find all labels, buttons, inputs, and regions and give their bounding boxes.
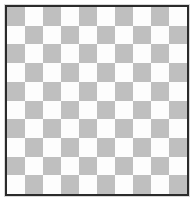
board-square-e9[interactable] xyxy=(79,26,97,45)
board-square-e5[interactable] xyxy=(79,101,97,120)
board-square-b2[interactable] xyxy=(25,157,43,176)
board-square-h6[interactable] xyxy=(133,82,151,101)
board-square-c7[interactable] xyxy=(43,63,61,82)
board-square-c5[interactable] xyxy=(43,101,61,120)
board-square-h1[interactable] xyxy=(133,175,151,194)
board-square-c10[interactable] xyxy=(43,7,61,26)
board-square-j4[interactable] xyxy=(169,119,187,138)
board-square-f10[interactable] xyxy=(97,7,115,26)
board-square-b4[interactable] xyxy=(25,119,43,138)
board-square-g7[interactable] xyxy=(115,63,133,82)
board-square-g3[interactable] xyxy=(115,138,133,157)
board-square-b7[interactable] xyxy=(25,63,43,82)
board-square-c3[interactable] xyxy=(43,138,61,157)
board-square-i3[interactable] xyxy=(151,138,169,157)
board-square-b6[interactable] xyxy=(25,82,43,101)
board-square-i9[interactable] xyxy=(151,26,169,45)
board-square-f3[interactable] xyxy=(97,138,115,157)
board-square-h4[interactable] xyxy=(133,119,151,138)
board-square-a4[interactable] xyxy=(7,119,25,138)
board-square-d4[interactable] xyxy=(61,119,79,138)
board-square-g4[interactable] xyxy=(115,119,133,138)
board-square-c9[interactable] xyxy=(43,26,61,45)
board-square-j9[interactable] xyxy=(169,26,187,45)
board-square-e1[interactable] xyxy=(79,175,97,194)
board-square-i7[interactable] xyxy=(151,63,169,82)
board-square-h2[interactable] xyxy=(133,157,151,176)
board-square-e6[interactable] xyxy=(79,82,97,101)
board-square-f9[interactable] xyxy=(97,26,115,45)
board-square-b9[interactable] xyxy=(25,26,43,45)
board-square-j8[interactable] xyxy=(169,44,187,63)
board-square-e8[interactable] xyxy=(79,44,97,63)
board-square-d6[interactable] xyxy=(61,82,79,101)
board-square-j6[interactable] xyxy=(169,82,187,101)
board-square-j10[interactable] xyxy=(169,7,187,26)
board-square-b10[interactable] xyxy=(25,7,43,26)
board-square-c2[interactable] xyxy=(43,157,61,176)
board-square-i6[interactable] xyxy=(151,82,169,101)
board-square-c8[interactable] xyxy=(43,44,61,63)
board-square-b5[interactable] xyxy=(25,101,43,120)
board-square-d2[interactable] xyxy=(61,157,79,176)
board-square-b3[interactable] xyxy=(25,138,43,157)
board-square-i10[interactable] xyxy=(151,7,169,26)
board-square-b8[interactable] xyxy=(25,44,43,63)
board-square-g6[interactable] xyxy=(115,82,133,101)
board-square-f1[interactable] xyxy=(97,175,115,194)
board-square-h9[interactable] xyxy=(133,26,151,45)
board-square-j7[interactable] xyxy=(169,63,187,82)
board-square-e2[interactable] xyxy=(79,157,97,176)
board-square-a6[interactable] xyxy=(7,82,25,101)
board-square-h3[interactable] xyxy=(133,138,151,157)
board-grid[interactable] xyxy=(7,7,187,194)
board-square-i4[interactable] xyxy=(151,119,169,138)
board-square-g8[interactable] xyxy=(115,44,133,63)
board-square-d9[interactable] xyxy=(61,26,79,45)
board-square-a3[interactable] xyxy=(7,138,25,157)
board-square-f2[interactable] xyxy=(97,157,115,176)
board-square-a5[interactable] xyxy=(7,101,25,120)
board-square-a9[interactable] xyxy=(7,26,25,45)
board-square-j2[interactable] xyxy=(169,157,187,176)
board-square-d7[interactable] xyxy=(61,63,79,82)
board-square-j1[interactable] xyxy=(169,175,187,194)
board-square-g1[interactable] xyxy=(115,175,133,194)
board-square-e3[interactable] xyxy=(79,138,97,157)
board-square-d8[interactable] xyxy=(61,44,79,63)
board-square-f5[interactable] xyxy=(97,101,115,120)
board-square-g2[interactable] xyxy=(115,157,133,176)
board-square-g9[interactable] xyxy=(115,26,133,45)
board-square-i8[interactable] xyxy=(151,44,169,63)
board-square-a8[interactable] xyxy=(7,44,25,63)
board-square-e7[interactable] xyxy=(79,63,97,82)
board-square-b1[interactable] xyxy=(25,175,43,194)
board-square-j3[interactable] xyxy=(169,138,187,157)
board-square-d10[interactable] xyxy=(61,7,79,26)
board-square-c4[interactable] xyxy=(43,119,61,138)
board-square-c1[interactable] xyxy=(43,175,61,194)
board-square-h7[interactable] xyxy=(133,63,151,82)
board-square-f6[interactable] xyxy=(97,82,115,101)
board-square-f8[interactable] xyxy=(97,44,115,63)
board-square-g5[interactable] xyxy=(115,101,133,120)
board-square-c6[interactable] xyxy=(43,82,61,101)
board-square-d1[interactable] xyxy=(61,175,79,194)
board-square-j5[interactable] xyxy=(169,101,187,120)
board-square-h8[interactable] xyxy=(133,44,151,63)
board-square-h5[interactable] xyxy=(133,101,151,120)
board-square-i5[interactable] xyxy=(151,101,169,120)
board-square-a7[interactable] xyxy=(7,63,25,82)
board-square-i2[interactable] xyxy=(151,157,169,176)
board-square-g10[interactable] xyxy=(115,7,133,26)
board-square-a10[interactable] xyxy=(7,7,25,26)
board-square-e4[interactable] xyxy=(79,119,97,138)
board-square-i1[interactable] xyxy=(151,175,169,194)
board-square-a2[interactable] xyxy=(7,157,25,176)
board-square-d3[interactable] xyxy=(61,138,79,157)
board-square-a1[interactable] xyxy=(7,175,25,194)
board-square-d5[interactable] xyxy=(61,101,79,120)
board-square-f4[interactable] xyxy=(97,119,115,138)
board-square-e10[interactable] xyxy=(79,7,97,26)
board-square-f7[interactable] xyxy=(97,63,115,82)
